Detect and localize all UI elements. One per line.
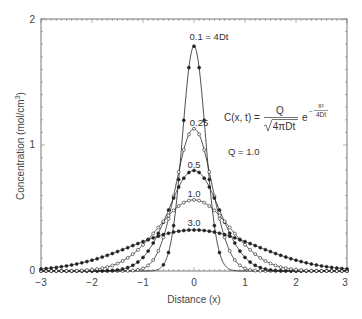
x-tick-m1: −1 [137, 277, 149, 288]
q-label: Q = 1.0 [228, 146, 259, 157]
y-tick-1: 1 [29, 139, 35, 150]
label-series-0.5: 0.5 [187, 159, 200, 170]
y-tick-2: 2 [29, 14, 35, 25]
axis-ticks [41, 19, 347, 271]
y-tick-labels: 0 1 2 [29, 14, 35, 276]
formula-numerator: Q [276, 105, 284, 116]
x-tick-2: 2 [293, 277, 299, 288]
formula-lhs: C(x, t) = [224, 112, 260, 123]
plot-frame [41, 19, 347, 271]
x-tick-3: 3 [342, 277, 348, 288]
x-tick-m3: −3 [35, 277, 47, 288]
y-axis-title: Concentration (mol/cm3) [14, 92, 26, 200]
formula-e: e [302, 112, 308, 123]
series-3.0 [40, 228, 349, 270]
formula-denominator: 4πDt [273, 121, 296, 132]
concentration-chart: 0 1 2 −3 −2 −1 0 1 2 3 Distance (x) Conc… [0, 0, 362, 319]
x-axis-title: Distance (x) [167, 294, 220, 305]
x-tick-1: 1 [242, 277, 248, 288]
label-series-0.25: 0.25 [190, 117, 209, 128]
series-0.1 [41, 45, 347, 271]
y-tick-0: 0 [29, 265, 35, 276]
label-series-3.0: 3.0 [187, 217, 200, 228]
label-series-1.0: 1.0 [187, 188, 200, 199]
label-series-0.1: 0.1 = 4Dt [190, 31, 229, 42]
x-tick-0: 0 [191, 277, 197, 288]
formula-exp-den: 4Dt [316, 111, 326, 118]
formula-exp-minus: − [309, 108, 313, 115]
x-tick-m2: −2 [86, 277, 98, 288]
x-tick-labels: −3 −2 −1 0 1 2 3 [35, 277, 348, 288]
formula-annotation: C(x, t) = Q 4πDt e − x² 4Dt [224, 102, 328, 132]
formula-exp-num: x² [318, 102, 324, 109]
